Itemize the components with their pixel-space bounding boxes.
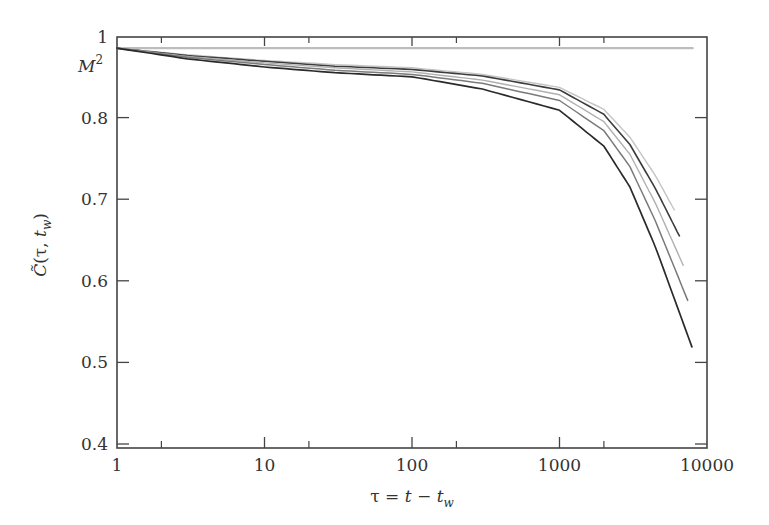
y-tick-label: 0.5: [81, 352, 108, 372]
x-tick-label: 1: [112, 455, 123, 475]
x-tick-label: 1000: [538, 455, 581, 475]
y-tick-label: 0.8: [81, 108, 108, 128]
m-squared-label: M2: [77, 53, 103, 76]
correlation-chart: 1101001000100000.40.50.60.70.81 M2 τ = t…: [0, 0, 769, 525]
x-tick-label: 10000: [680, 455, 734, 475]
y-axis-title: C̃(τ, tw): [30, 213, 54, 277]
x-tick-label: 100: [396, 455, 428, 475]
y-tick-label: 0.7: [81, 189, 108, 209]
ticks-layer: 1101001000100000.40.50.60.70.81: [81, 27, 734, 475]
series-line-3: [117, 48, 683, 265]
plot-frame: [117, 37, 707, 448]
y-tick-label: 0.4: [81, 434, 108, 454]
x-tick-label: 10: [254, 455, 276, 475]
series-line-5: [117, 48, 692, 347]
x-axis-title: τ = t − tw: [370, 486, 454, 510]
series-line-1: [117, 48, 674, 210]
y-tick-label: 1: [97, 27, 108, 47]
series-line-4: [117, 48, 688, 300]
y-tick-label: 0.6: [81, 271, 108, 291]
series-layer: [117, 48, 693, 347]
